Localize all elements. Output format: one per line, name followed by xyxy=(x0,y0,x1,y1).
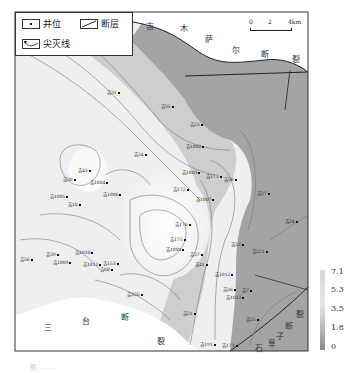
well-marker: 吉1009 xyxy=(53,259,71,265)
fault-label-char: 三 xyxy=(44,321,52,332)
fault-label-char: 尔 xyxy=(232,44,240,55)
fault-label-char: 裂 xyxy=(157,335,165,346)
well-marker: 吉37 xyxy=(190,251,203,257)
scale-line xyxy=(250,28,292,31)
well-marker: 吉23 xyxy=(190,121,203,127)
fault-label-char: 断 xyxy=(121,311,129,322)
colorbar-tick: 7.1 xyxy=(331,267,344,276)
well-marker: 吉38 xyxy=(224,176,237,182)
well-marker: 吉1011 xyxy=(83,261,101,267)
well-marker: 吉35 xyxy=(161,103,174,109)
well-marker: 吉34 xyxy=(134,151,147,157)
map-legend: 井位 断层 尖灭线 xyxy=(15,12,133,56)
colorbar-tick: 0 xyxy=(331,342,336,351)
well-marker: 吉24 xyxy=(285,218,298,224)
well-marker: 吉56 xyxy=(20,256,33,262)
fault-label-char: 裂 xyxy=(292,53,300,64)
colorbar-tick: 3.5 xyxy=(331,304,344,313)
well-marker: 吉35b xyxy=(127,291,143,297)
well-marker: 吉1005 xyxy=(50,193,68,199)
well-marker: 吉25 xyxy=(246,316,259,322)
well-marker: 吉39 xyxy=(46,251,59,257)
well-marker: 吉1007 xyxy=(196,196,214,202)
well-marker: 吉172 xyxy=(173,186,189,192)
well-marker: 吉60 xyxy=(100,266,113,272)
legend-fault: 断层 xyxy=(80,17,119,30)
colorbar xyxy=(320,270,325,350)
fault-label-char: 吉 xyxy=(146,20,154,31)
fault-label-char: 断 xyxy=(285,320,293,331)
fault-icon xyxy=(80,19,98,29)
well-marker: 吉26 xyxy=(223,286,236,292)
well-marker: 吉1012 xyxy=(215,271,233,277)
well-marker: 吉191 xyxy=(200,341,216,347)
well-marker: 吉176 xyxy=(175,221,191,227)
colorbar-tick: 5.3 xyxy=(331,285,344,294)
fault-label-char: 木 xyxy=(180,22,188,33)
fault-label-char: 台 xyxy=(82,315,90,326)
well-marker: 吉1002 xyxy=(186,143,204,149)
well-marker: 吉1006 xyxy=(103,191,121,197)
fault-label-char: 裂 xyxy=(296,308,304,319)
legend-fault-label: 断层 xyxy=(101,17,119,30)
well-marker: 吉27 xyxy=(257,190,270,196)
legend-pinchout: 尖灭线 xyxy=(22,37,70,50)
legend-well-label: 井位 xyxy=(43,17,61,30)
legend-well: 井位 xyxy=(22,17,61,30)
well-marker: 吉22 xyxy=(231,241,244,247)
scale-tick-0: 0 xyxy=(249,18,253,25)
well-marker: 吉31 xyxy=(107,89,120,95)
well-marker: 吉21 xyxy=(183,310,196,316)
figure-caption: 图 …… xyxy=(30,362,58,371)
well-marker: 吉41 xyxy=(195,261,208,267)
colorbar-tick: 1.8 xyxy=(331,323,344,332)
fault-label-char: 子 xyxy=(276,330,284,341)
scale-tick-4km: 4km xyxy=(288,18,301,25)
well-marker: 吉173 xyxy=(206,173,222,179)
pinchout-icon xyxy=(22,39,40,49)
well-marker: 吉7 xyxy=(242,287,252,293)
fault-label-char: 阜 xyxy=(268,337,276,348)
well-marker: 吉1010 xyxy=(75,249,93,255)
well-marker: 吉175 xyxy=(170,236,186,242)
scale-tick-2: 2 xyxy=(268,18,272,25)
well-marker: 吉1013 xyxy=(226,294,244,300)
fault-label-char: 断 xyxy=(261,48,269,59)
fault-label-char: 萨 xyxy=(205,33,213,44)
well-marker: 吉1004 xyxy=(90,179,108,185)
well-marker: 吉43 xyxy=(78,167,91,173)
well-marker: 吉18 xyxy=(68,201,81,207)
well-marker: 吉221 xyxy=(252,248,268,254)
well-marker: 吉1003 xyxy=(182,169,200,175)
well-icon xyxy=(22,19,40,29)
well-marker: 吉1008 xyxy=(166,246,184,252)
well-marker: 吉30 xyxy=(63,176,76,182)
well-marker: 吉171 xyxy=(222,342,238,348)
fault-label-char: 石 xyxy=(255,342,263,353)
legend-pinchout-label: 尖灭线 xyxy=(43,37,70,50)
